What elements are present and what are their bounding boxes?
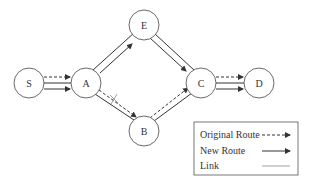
svg-text:S: S xyxy=(26,78,32,89)
svg-text:C: C xyxy=(198,78,205,89)
node-d[interactable]: D xyxy=(244,68,274,98)
legend: Original Route New Route Link xyxy=(194,122,298,175)
svg-text:E: E xyxy=(141,20,147,31)
node-b[interactable]: B xyxy=(129,116,159,146)
link-a-e xyxy=(93,33,134,70)
svg-text:D: D xyxy=(255,78,262,89)
node-e[interactable]: E xyxy=(129,10,159,40)
legend-new-route-label: New Route xyxy=(200,145,246,156)
legend-link-label: Link xyxy=(200,160,219,171)
svg-text:A: A xyxy=(82,78,90,89)
link-b-c xyxy=(154,93,192,121)
node-a[interactable]: A xyxy=(71,68,101,98)
link-e-c xyxy=(154,33,194,70)
legend-original-route-label: Original Route xyxy=(200,129,260,140)
node-c[interactable]: C xyxy=(186,68,216,98)
svg-text:B: B xyxy=(141,126,148,137)
network-diagram: S A E B C D Original Route New Route Lin… xyxy=(0,0,311,186)
node-s[interactable]: S xyxy=(14,68,44,98)
